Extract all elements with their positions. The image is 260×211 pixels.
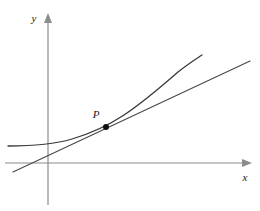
point-of-tangency-dot	[103, 124, 109, 130]
y-axis-label: y	[31, 12, 37, 24]
y-axis-arrowhead	[44, 13, 52, 23]
x-axis-arrowhead	[242, 159, 252, 167]
figure-container: P y x	[0, 0, 260, 211]
function-curve	[8, 55, 202, 146]
tangent-line-figure: P y x	[0, 0, 260, 211]
x-axis-group	[5, 159, 252, 167]
x-axis-label: x	[242, 171, 248, 183]
y-axis-group	[44, 13, 52, 205]
point-label-p: P	[92, 108, 100, 120]
